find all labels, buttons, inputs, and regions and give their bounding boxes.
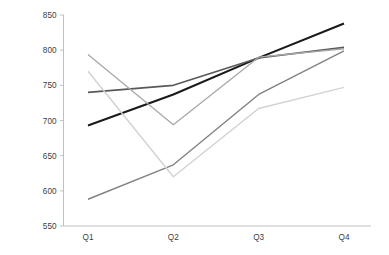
- series-line-series-1: [88, 23, 344, 125]
- x-axis-tick-label: Q4: [339, 233, 350, 242]
- x-axis-tick-label: Q1: [83, 233, 94, 242]
- y-axis-tick-label: 700: [43, 117, 57, 126]
- y-axis-tick-label: 650: [43, 152, 57, 161]
- series-line-series-3: [88, 51, 344, 199]
- y-axis-tick-label: 600: [43, 187, 57, 196]
- line-chart: 550600650700750800850 Q1Q2Q3Q4: [0, 0, 389, 255]
- y-axis-tick-label: 800: [43, 46, 57, 55]
- x-axis-tick-labels: Q1Q2Q3Q4: [83, 233, 350, 242]
- series-lines: [88, 23, 344, 199]
- y-axis-tick-label: 550: [43, 222, 57, 231]
- x-axis-tick-label: Q2: [168, 233, 179, 242]
- series-line-series-4: [88, 49, 344, 125]
- y-axis-tick-label: 850: [43, 11, 57, 20]
- x-axis-tick-label: Q3: [253, 233, 264, 242]
- chart-canvas: 550600650700750800850 Q1Q2Q3Q4: [0, 0, 389, 255]
- y-axis-tick-label: 750: [43, 81, 57, 90]
- axes: [64, 15, 372, 226]
- y-axis-tick-labels: 550600650700750800850: [43, 11, 64, 231]
- series-line-series-5: [88, 71, 344, 177]
